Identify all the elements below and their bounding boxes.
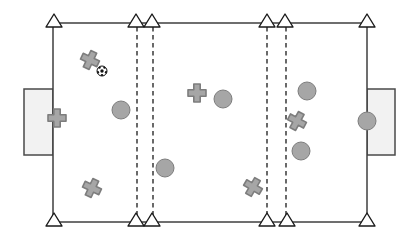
- player-circle-3: [156, 159, 174, 177]
- cone-top-6: [359, 14, 375, 27]
- cone-top-5: [277, 14, 293, 27]
- drill-field-diagram: [0, 0, 415, 241]
- cone-top-1: [46, 14, 62, 27]
- player-circle-5: [292, 142, 310, 160]
- soccer-ball-patch: [100, 69, 103, 72]
- cone-top-4: [259, 14, 275, 27]
- player-circle-6: [358, 112, 376, 130]
- cone-top-2: [128, 14, 144, 27]
- cone-top-3: [144, 14, 160, 27]
- player-circle-1: [112, 101, 130, 119]
- player-circle-4: [298, 82, 316, 100]
- player-circle-2: [214, 90, 232, 108]
- drill-field-svg: [0, 0, 415, 241]
